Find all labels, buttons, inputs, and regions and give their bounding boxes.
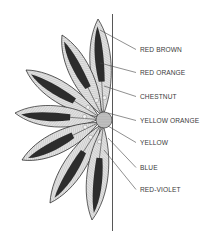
color-label: BLUE: [140, 164, 158, 171]
color-label: CHESTNUT: [140, 93, 177, 100]
color-label: RED ORANGE: [140, 69, 185, 76]
hub-mask: [113, 111, 123, 129]
petal-spot: [103, 96, 107, 100]
color-label: YELLOW: [140, 139, 168, 146]
petal-spot: [82, 114, 86, 118]
color-label: RED-VIOLET: [140, 186, 181, 193]
color-label: YELLOW ORANGE: [140, 117, 199, 124]
flower-center: [96, 112, 112, 128]
color-label: RED BROWN: [140, 46, 182, 53]
